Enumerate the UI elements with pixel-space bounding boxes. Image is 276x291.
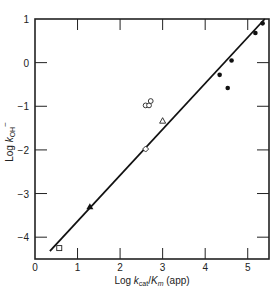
y-tick-label: −4: [18, 232, 30, 243]
y-tick-label: 1: [23, 14, 29, 25]
x-tick-label: 0: [32, 262, 38, 273]
y-tick-label: 0: [23, 58, 29, 69]
open-square-marker: [57, 246, 62, 251]
x-tick-label: 4: [202, 262, 208, 273]
x-tick-label: 5: [245, 262, 251, 273]
x-tick-label: 3: [160, 262, 166, 273]
filled-circle-marker: [225, 86, 230, 91]
axis-ticks: [35, 19, 269, 259]
filled-circle-marker: [217, 73, 222, 78]
x-tick-label: 2: [117, 262, 123, 273]
filled-circle-marker: [260, 21, 265, 26]
x-tick-label: 1: [75, 262, 81, 273]
y-tick-label: −2: [18, 145, 30, 156]
fit-line-path: [50, 19, 265, 251]
open-circle-marker: [148, 99, 153, 104]
x-axis-label: Log kcat/Km (app): [114, 275, 189, 287]
filled-circle-marker: [229, 58, 234, 63]
plot-border: [35, 19, 269, 259]
y-tick-label: −3: [18, 189, 30, 200]
y-tick-label: −1: [18, 101, 30, 112]
data-markers: [57, 21, 265, 251]
open-triangle-marker: [160, 118, 166, 124]
scatter-chart: 01234510−1−2−3−4 Log kcat/Km (app) Log k…: [0, 0, 276, 291]
tick-labels: 01234510−1−2−3−4: [18, 14, 251, 273]
filled-circle-marker: [253, 31, 258, 36]
regression-line: [50, 19, 265, 251]
y-axis-label: Log kOH−: [1, 122, 16, 162]
plot-frame: [35, 19, 269, 259]
